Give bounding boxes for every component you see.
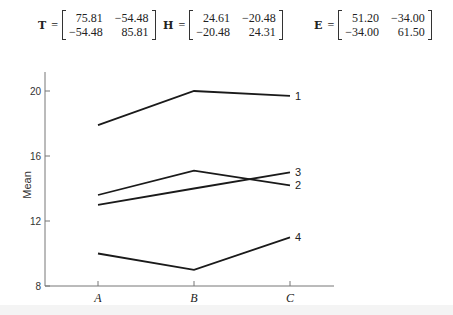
series-line-2	[98, 171, 290, 195]
y-tick-label: 8	[35, 281, 41, 292]
y-axis-label: Mean	[21, 171, 33, 199]
series-label-1: 1	[295, 90, 301, 102]
y-tick-label: 16	[30, 151, 42, 162]
series-label-3: 3	[295, 166, 301, 178]
series-line-4	[98, 237, 290, 269]
x-tick-label: A	[93, 291, 102, 305]
y-tick-label: 20	[30, 86, 42, 97]
chart-axes: 8121620MeanABC	[21, 72, 334, 305]
x-tick-label: C	[286, 291, 295, 305]
series-label-4: 4	[295, 231, 301, 243]
chart-series: 1234	[98, 90, 301, 270]
y-tick-label: 12	[30, 216, 42, 227]
series-line-1	[98, 91, 290, 125]
series-label-2: 2	[295, 179, 301, 191]
line-chart: 8121620MeanABC 1234	[0, 0, 453, 315]
x-tick-label: B	[190, 291, 198, 305]
page-edge	[0, 305, 453, 315]
